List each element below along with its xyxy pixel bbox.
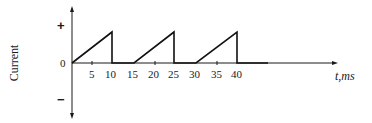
y-axis-arrow-up-icon xyxy=(70,6,74,12)
y-label-zero: 0 xyxy=(60,57,66,69)
y-label-positive: + xyxy=(57,18,65,33)
current-series-line xyxy=(72,32,268,63)
x-tick-label: 35 xyxy=(211,68,223,80)
y-axis-arrow-down-icon xyxy=(70,113,74,119)
x-axis-arrow-icon xyxy=(332,61,338,65)
x-tick-label: 10 xyxy=(105,68,117,80)
x-tick-label: 30 xyxy=(189,68,201,80)
x-tick-label: 5 xyxy=(89,68,95,80)
x-tick-label: 40 xyxy=(231,68,243,80)
y-axis-title: Current xyxy=(7,44,21,81)
x-tick-label: 25 xyxy=(168,68,180,80)
current-waveform-chart: + 0 − 5 10 15 20 25 30 35 40 t,ms Curren… xyxy=(0,0,372,123)
y-label-negative: − xyxy=(57,92,65,107)
x-tick-label: 15 xyxy=(127,68,139,80)
x-tick-label: 20 xyxy=(148,68,160,80)
x-axis-title: t,ms xyxy=(335,69,355,83)
